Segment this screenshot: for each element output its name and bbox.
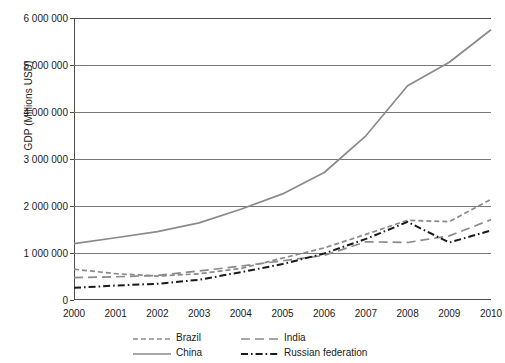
gdp-line-chart: GDP (Millions USD) 01 000 0002 000 0003 … [0, 0, 505, 363]
x-tick-label: 2002 [146, 308, 168, 319]
series-lines [74, 18, 491, 300]
legend-item-china[interactable]: China [133, 347, 241, 358]
brazil-dashed-swatch [133, 334, 171, 342]
series-line-russian-federation [74, 222, 491, 288]
y-tick-mark [70, 300, 74, 301]
legend-item-india[interactable]: India [241, 332, 423, 343]
series-line-china [74, 30, 491, 244]
y-tick-label: 3 000 000 [24, 154, 69, 165]
russia-dashdot-swatch [241, 349, 279, 357]
india-longdash-swatch [241, 334, 279, 342]
y-tick-label: 5 000 000 [24, 60, 69, 71]
x-tick-label: 2009 [438, 308, 460, 319]
x-tick-label: 2008 [396, 308, 418, 319]
china-solid-swatch [133, 349, 171, 357]
legend-label: Brazil [176, 332, 201, 343]
x-tick-label: 2005 [271, 308, 293, 319]
legend-label: Russian federation [284, 347, 367, 358]
y-tick-label: 4 000 000 [24, 107, 69, 118]
y-tick-label: 1 000 000 [24, 248, 69, 259]
y-tick-label: 0 [62, 295, 68, 306]
x-tick-label: 2001 [105, 308, 127, 319]
chart-legend: BrazilIndiaChinaRussian federation [133, 330, 423, 360]
y-tick-label: 2 000 000 [24, 201, 69, 212]
legend-label: India [284, 332, 306, 343]
x-tick-label: 2000 [63, 308, 85, 319]
legend-item-russian-federation[interactable]: Russian federation [241, 347, 423, 358]
legend-item-brazil[interactable]: Brazil [133, 332, 241, 343]
x-tick-label: 2006 [313, 308, 335, 319]
series-line-india [74, 220, 491, 278]
legend-label: China [176, 347, 202, 358]
x-tick-label: 2003 [188, 308, 210, 319]
y-tick-label: 6 000 000 [24, 13, 69, 24]
x-tick-label: 2007 [355, 308, 377, 319]
plot-area: 01 000 0002 000 0003 000 0004 000 0005 0… [74, 18, 491, 300]
x-tick-label: 2004 [230, 308, 252, 319]
x-tick-label: 2010 [480, 308, 502, 319]
